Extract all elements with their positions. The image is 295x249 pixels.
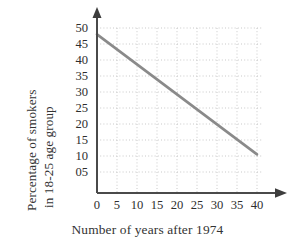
y-axis-arrow-icon — [93, 7, 102, 18]
x-axis-title: Number of years after 1974 — [0, 222, 295, 238]
y-axis-title-line1: Percentage of smokers — [24, 90, 40, 211]
y-tick-label: 20 — [64, 117, 88, 132]
y-axis-title-line2: in 18-25 age group — [41, 106, 57, 208]
x-tick-label: 25 — [186, 198, 208, 213]
x-tick-label: 35 — [226, 198, 248, 213]
y-tick-label: 45 — [64, 37, 88, 52]
data-line — [97, 34, 257, 154]
y-tick-label: 50 — [64, 21, 88, 36]
y-axis-title: Percentage of smokers in 18-25 age group — [0, 0, 70, 220]
x-tick-label: 20 — [166, 198, 188, 213]
y-tick-label: 15 — [64, 133, 88, 148]
y-tick-label: 10 — [64, 149, 88, 164]
y-tick-label: 35 — [64, 69, 88, 84]
y-tick-label: 30 — [64, 85, 88, 100]
y-tick-label: 40 — [64, 53, 88, 68]
x-tick-label: 30 — [206, 198, 228, 213]
x-tick-label: 5 — [106, 198, 128, 213]
x-tick-label: 10 — [126, 198, 148, 213]
x-tick-label: 0 — [86, 198, 108, 213]
x-tick-label: 15 — [146, 198, 168, 213]
y-tick-label: 05 — [64, 165, 88, 180]
x-tick-label: 40 — [246, 198, 268, 213]
smokers-line-chart: .gv, .gh{ stroke:#c9c9c9; stroke-width:1… — [0, 0, 295, 249]
x-axis-arrow-icon — [275, 188, 287, 198]
y-tick-label: 25 — [64, 101, 88, 116]
